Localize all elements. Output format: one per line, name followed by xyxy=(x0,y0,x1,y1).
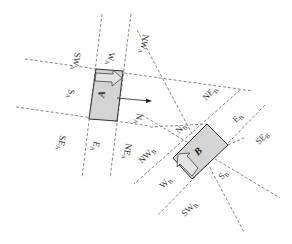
a-bottom-line xyxy=(16,107,150,126)
arrowhead-icon xyxy=(146,99,152,104)
vehicle-zone-diagram: A B SWA WA NWA SA NA SEA EA NEA NEB EB S… xyxy=(0,0,292,244)
label-w-a: WA xyxy=(104,51,117,66)
label-ne-b: NEB xyxy=(200,84,219,103)
b-right-cross xyxy=(228,138,244,145)
a-top-line xyxy=(25,59,253,91)
label-w-b: WB xyxy=(157,174,174,191)
label-sw-b: SWB xyxy=(179,199,199,219)
label-nw-b: NWB xyxy=(136,145,157,166)
label-ne-a: NEA xyxy=(120,142,134,161)
label-sw-a: SWA xyxy=(69,51,83,71)
label-s-a: SA xyxy=(64,88,77,100)
label-s-b: SB xyxy=(216,168,230,182)
label-nw-a: NWA xyxy=(137,33,151,55)
vehicle-a-normal-arrow xyxy=(117,98,150,101)
label-e-b: EB xyxy=(230,111,245,126)
b-nw-line xyxy=(137,30,244,232)
label-n-a: NA xyxy=(132,112,145,125)
label-se-a: SEA xyxy=(54,134,68,151)
label-e-a: EA xyxy=(89,140,102,152)
label-se-b: SEB xyxy=(253,129,271,147)
